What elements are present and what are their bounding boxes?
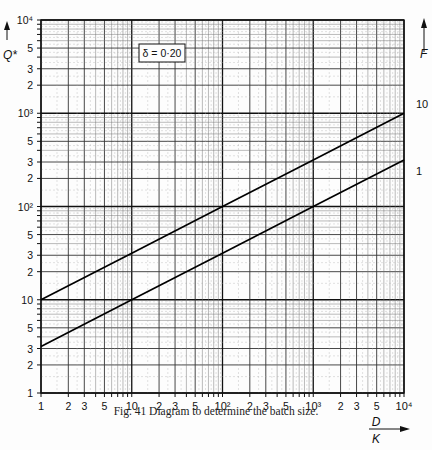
f-axis-label: F [420, 47, 428, 61]
delta-value: δ = 0·20 [143, 47, 182, 59]
y-tick-label: 3 [27, 249, 33, 261]
y-tick-label: 2 [27, 79, 33, 91]
y-tick-label: 10² [18, 201, 34, 213]
y-tick-label: 5 [27, 322, 33, 334]
x-axis-arrow-icon [400, 426, 410, 432]
y-tick-label: 3 [27, 156, 33, 168]
y-tick-label: 5 [27, 135, 33, 147]
y-tick-label: 10⁴ [17, 14, 33, 26]
x-axis-label-denominator: K [372, 432, 381, 446]
y-tick-label: 10 [21, 294, 33, 306]
y-tick-label: 2 [27, 359, 33, 371]
y-tick-label: 5 [27, 42, 33, 54]
series-label-F-10: 10 [416, 98, 428, 110]
figure-caption: Fig. 41 Diagram to determine the batch s… [0, 405, 432, 417]
y-tick-label: 10³ [18, 107, 34, 119]
y-axis-label: Q* [3, 48, 17, 62]
y-tick-label: 2 [27, 172, 33, 184]
y-tick-label: 5 [27, 229, 33, 241]
y-tick-label: 1 [27, 387, 33, 399]
y-tick-label: 3 [27, 63, 33, 75]
y-axis-arrow-icon [4, 21, 10, 30]
batch-size-chart: 11223355101022335510²10²22335510³10³2233… [0, 0, 432, 450]
series-label-F-1: 1 [416, 165, 422, 177]
y-tick-label: 3 [27, 343, 33, 355]
y-tick-label: 2 [27, 266, 33, 278]
f-axis-arrow-icon [421, 18, 427, 28]
x-axis-label-numerator: D [372, 415, 381, 429]
